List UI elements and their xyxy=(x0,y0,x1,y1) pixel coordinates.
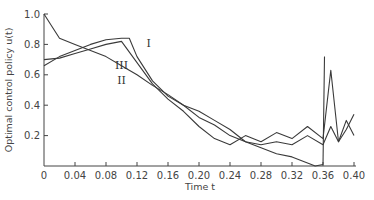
x-tick-label: 0.08 xyxy=(95,170,117,181)
y-tick-label: 1.0 xyxy=(24,9,40,20)
y-tick-label: 0.2 xyxy=(24,130,40,141)
x-tick-label: 0.28 xyxy=(250,170,272,181)
y-axis-label: Optimal control policy u(t) xyxy=(3,28,14,153)
series-label-I: I xyxy=(146,37,150,50)
series-line-I xyxy=(44,38,354,144)
y-tick-label: 0.4 xyxy=(24,100,40,111)
series-labels: IIIIII xyxy=(115,37,151,86)
chart-canvas: 00.040.080.120.160.200.240.280.320.360.4… xyxy=(0,0,374,200)
x-ticks: 00.040.080.120.160.200.240.280.320.360.4… xyxy=(41,162,365,181)
series-label-II: II xyxy=(117,74,126,87)
x-tick-label: 0.16 xyxy=(157,170,179,181)
x-tick-label: 0.36 xyxy=(312,170,334,181)
x-tick-label: 0.24 xyxy=(219,170,241,181)
series-line-III xyxy=(44,41,354,144)
series-label-III: III xyxy=(115,59,128,72)
x-axis-label: Time t xyxy=(184,181,215,192)
x-tick-label: 0.20 xyxy=(188,170,210,181)
series-lines xyxy=(44,14,354,166)
x-tick-label: 0.04 xyxy=(64,170,86,181)
x-tick-label: 0.40 xyxy=(343,170,365,181)
axes xyxy=(44,14,356,166)
x-tick-label: 0.32 xyxy=(281,170,303,181)
x-tick-label: 0.12 xyxy=(126,170,148,181)
x-tick-label: 0 xyxy=(41,170,47,181)
y-tick-label: 0.6 xyxy=(24,69,40,80)
y-tick-label: 0.8 xyxy=(24,39,40,50)
